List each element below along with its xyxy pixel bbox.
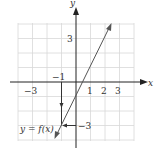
y-axis-arrow-icon [73, 7, 79, 15]
x-tick-3: 3 [115, 86, 121, 96]
function-graph: y x 3 −3 1 2 3 −1 −3 y = f(x) [0, 0, 154, 149]
function-label: y = f(x) [19, 124, 54, 134]
line-arrow-down-icon [55, 131, 61, 139]
label-neg3: −3 [78, 121, 92, 131]
y-tick-3: 3 [67, 34, 73, 44]
left-arrow-icon [62, 124, 67, 128]
label-neg1: −1 [52, 72, 65, 82]
x-axis-label: x [148, 78, 153, 88]
y-axis-label: y [69, 0, 76, 8]
x-axis-arrow-icon [140, 79, 148, 85]
x-tick-1: 1 [87, 86, 93, 96]
x-tick-neg3: −3 [24, 86, 38, 96]
down-arrow-icon [60, 103, 64, 108]
x-tick-2: 2 [101, 86, 107, 96]
guide-lines [62, 82, 77, 126]
